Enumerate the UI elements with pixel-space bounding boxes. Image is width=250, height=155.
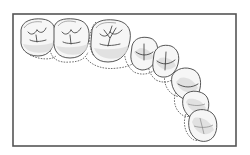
tooth-molar-1: [21, 19, 55, 56]
tooth-incisor-central: [189, 110, 217, 142]
dental-arch-diagram: [0, 0, 250, 155]
tooth-molar-2: [54, 19, 89, 58]
